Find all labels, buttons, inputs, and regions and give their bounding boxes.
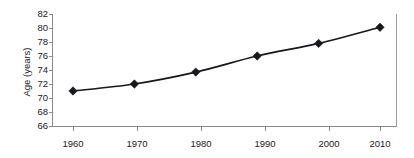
y-axis-title: Age (years) [21,47,32,96]
y-tick-label: 70 [37,92,48,103]
x-tick-label: 2010 [369,138,390,149]
chart-canvas: Age (years) 66 68 70 72 74 76 78 80 82 [0,0,414,158]
y-tick-label: 66 [37,120,48,131]
chart-background [0,0,414,158]
y-tick-label: 82 [37,8,48,19]
y-tick-label: 80 [37,22,48,33]
y-tick-label: 72 [37,78,48,89]
y-tick-label: 78 [37,36,48,47]
x-tick-label: 1980 [190,138,211,149]
y-tick-label: 76 [37,50,48,61]
x-tick-label: 1960 [62,138,83,149]
y-axis-tick-labels: 66 68 70 72 74 76 78 80 82 [37,8,48,131]
x-tick-label: 1970 [126,138,147,149]
x-tick-label: 2000 [318,138,339,149]
y-tick-label: 74 [37,64,48,75]
y-tick-label: 68 [37,106,48,117]
line-chart: Age (years) 66 68 70 72 74 76 78 80 82 [0,0,414,158]
x-tick-label: 1990 [254,138,275,149]
